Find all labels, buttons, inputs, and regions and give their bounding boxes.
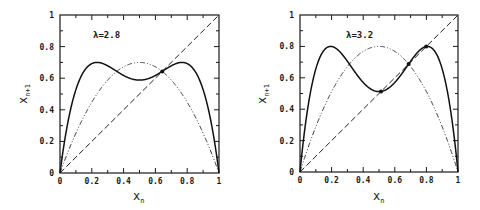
fixed-point-marker: [424, 45, 428, 49]
identity-line: [60, 15, 219, 173]
identity-line: [300, 15, 458, 172]
fixed-point-marker: [407, 62, 411, 66]
y-tick-label: 0: [49, 169, 54, 178]
y-tick-label: 0.6: [280, 74, 295, 83]
second-iterate-curve: [300, 46, 458, 172]
y-axis-label: xn+1: [16, 84, 32, 104]
logistic-map-curve: [300, 46, 458, 172]
x-tick-label: 1: [217, 177, 222, 186]
lambda-annotation: λ=2.8: [93, 30, 120, 40]
y-tick-label: 0.2: [280, 137, 295, 146]
tick-labels: 00.20.40.60.8100.20.40.60.81: [40, 11, 222, 186]
fixed-point-marker: [379, 89, 383, 93]
plot-panel-lambda-2-8: 00.20.40.60.8100.20.40.60.81 λ=2.8 xn xn…: [16, 11, 222, 205]
x-tick-label: 0.4: [116, 177, 131, 186]
y-tick-label: 0.6: [40, 74, 55, 83]
y-tick-label: 0.4: [280, 105, 295, 114]
x-axis-label: xn: [133, 189, 144, 205]
x-tick-label: 0: [298, 176, 303, 185]
x-tick-label: 1: [456, 176, 461, 185]
y-tick-label: 0.8: [40, 43, 55, 52]
y-tick-label: 1: [289, 11, 294, 20]
y-tick-label: 0.8: [280, 42, 295, 51]
x-tick-label: 0.6: [388, 176, 403, 185]
fixed-point-marker: [160, 69, 164, 73]
plot-panel-lambda-3-2: 00.20.40.60.8100.20.40.60.81 λ=3.2 xn xn…: [255, 11, 461, 205]
x-tick-label: 0.8: [180, 177, 195, 186]
curves: [60, 15, 219, 173]
second-iterate-curve: [60, 62, 219, 173]
x-tick-label: 0.8: [419, 176, 434, 185]
lambda-annotation: λ=3.2: [346, 30, 373, 40]
x-tick-label: 0.2: [324, 176, 339, 185]
y-axis-label: xn+1: [255, 84, 271, 104]
x-tick-label: 0.6: [148, 177, 163, 186]
x-tick-label: 0.4: [356, 176, 371, 185]
logistic-map-curve: [60, 62, 219, 173]
figure: 00.20.40.60.8100.20.40.60.81 λ=2.8 xn xn…: [0, 0, 480, 210]
x-tick-label: 0: [58, 177, 63, 186]
y-tick-label: 0: [289, 168, 294, 177]
y-tick-label: 0.2: [40, 137, 55, 146]
curves: [300, 15, 458, 172]
x-axis-label: xn: [373, 189, 384, 205]
y-tick-label: 1: [49, 11, 54, 20]
x-tick-label: 0.2: [85, 177, 100, 186]
y-tick-label: 0.4: [40, 106, 55, 115]
